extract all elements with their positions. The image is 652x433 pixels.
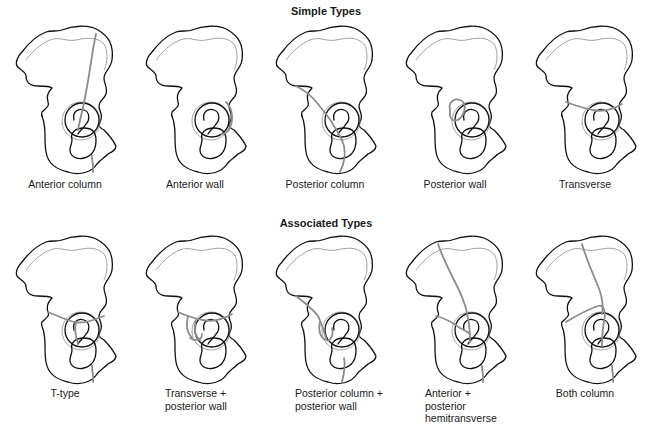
- figure-label-line: hemitransverse: [425, 412, 497, 425]
- iliac-crest-line: [26, 248, 107, 280]
- figure-label: Anterior +posteriorhemitransverse: [425, 387, 497, 425]
- figure-label-line: posterior: [425, 400, 497, 413]
- section-title-associated-types: Associated Types: [0, 217, 652, 229]
- figure-label-line: posterior wall: [295, 400, 383, 413]
- fracture-figure-posterior-column: [260, 22, 390, 182]
- figure-label-line: T-type: [0, 387, 130, 400]
- obturator-foramen: [590, 128, 616, 159]
- pelvis-illustration: [260, 232, 390, 392]
- fracture-figure-anterior-posterior-hemitransverse: [390, 232, 520, 392]
- iliac-crest-line: [286, 248, 367, 280]
- iliac-crest-line: [546, 248, 627, 280]
- iliac-crest-line: [416, 248, 497, 280]
- fracture-line: [195, 320, 200, 340]
- section-title-simple-types: Simple Types: [0, 5, 652, 17]
- figure-label-line: Anterior +: [425, 387, 497, 400]
- pelvis-illustration: [0, 232, 130, 392]
- pelvis-outline: [16, 26, 116, 173]
- pelvis-illustration: [520, 232, 650, 392]
- pelvis-illustration: [520, 22, 650, 182]
- figure-label: Transverse: [520, 178, 650, 191]
- figure-label-line: Posterior column: [260, 178, 390, 191]
- obturator-foramen: [200, 128, 226, 159]
- iliac-crest-line: [156, 38, 237, 70]
- iliac-crest-line: [416, 38, 497, 70]
- figure-label: Anterior column: [0, 178, 130, 191]
- pelvis-illustration: [390, 232, 520, 392]
- fracture-figure-both-column: [520, 232, 650, 392]
- figure-label-line: posterior wall: [165, 400, 227, 413]
- pelvis-illustration: [130, 232, 260, 392]
- pelvis-outline: [406, 236, 506, 383]
- fracture-figure-t-type: [0, 232, 130, 392]
- iliac-crest-line: [156, 248, 237, 280]
- pelvis-illustration: [260, 22, 390, 182]
- obturator-foramen: [460, 128, 486, 159]
- figure-label-line: Posterior column +: [295, 387, 383, 400]
- pelvis-illustration: [390, 22, 520, 182]
- iliac-crest-line: [546, 38, 627, 70]
- fracture-line: [296, 296, 326, 338]
- obturator-foramen: [460, 338, 486, 369]
- figure-label-line: Anterior column: [0, 178, 130, 191]
- figure-label: Posterior column: [260, 178, 390, 191]
- pelvis-outline: [276, 26, 376, 173]
- figure-label: Both column: [520, 387, 650, 400]
- figure-label: T-type: [0, 387, 130, 400]
- pelvis-outline: [276, 236, 376, 383]
- fracture-line: [450, 99, 465, 120]
- pelvis-outline: [536, 26, 636, 173]
- fracture-line: [78, 34, 96, 130]
- fracture-figure-posterior-wall: [390, 22, 520, 182]
- pelvis-illustration: [130, 22, 260, 182]
- pelvis-outline: [146, 26, 246, 173]
- fracture-figure-posterior-column-posterior-wall: [260, 232, 390, 392]
- figure-label: Transverse +posterior wall: [165, 387, 227, 412]
- fracture-line: [187, 316, 192, 338]
- pelvis-illustration: [0, 22, 130, 182]
- figure-label-line: Both column: [520, 387, 650, 400]
- obturator-foramen: [70, 338, 96, 369]
- figure-label-line: Transverse: [520, 178, 650, 191]
- figure-label: Posterior wall: [390, 178, 520, 191]
- obturator-foramen: [70, 128, 96, 159]
- fracture-line: [342, 358, 345, 382]
- fracture-figure-anterior-wall: [130, 22, 260, 182]
- fracture-figure-transverse: [520, 22, 650, 182]
- figure-label: Posterior column +posterior wall: [295, 387, 383, 412]
- figure-label-line: Posterior wall: [390, 178, 520, 191]
- obturator-foramen: [200, 338, 226, 369]
- figure-label: Anterior wall: [130, 178, 260, 191]
- fracture-line: [582, 244, 603, 314]
- pelvis-outline: [16, 236, 116, 383]
- fracture-figure-anterior-column: [0, 22, 130, 182]
- figure-label-line: Transverse +: [165, 387, 227, 400]
- fracture-figure-transverse-posterior-wall: [130, 232, 260, 392]
- fracture-line: [438, 244, 470, 342]
- iliac-crest-line: [286, 38, 367, 70]
- pelvis-outline: [146, 236, 246, 383]
- figure-label-line: Anterior wall: [130, 178, 260, 191]
- obturator-foramen: [590, 338, 616, 369]
- obturator-foramen: [330, 338, 356, 369]
